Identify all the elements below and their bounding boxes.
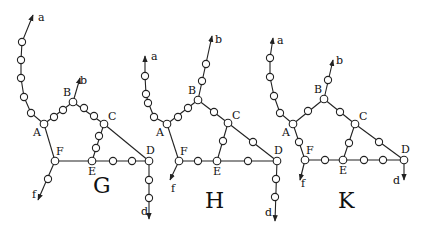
bead-node bbox=[321, 156, 328, 163]
end-label-b: b bbox=[80, 74, 87, 87]
bead-node bbox=[266, 73, 273, 80]
vertex-label-b: B bbox=[314, 83, 322, 96]
vertex-label-a: A bbox=[32, 126, 42, 139]
bead-node bbox=[210, 108, 217, 115]
end-label-b: b bbox=[215, 33, 222, 46]
vertex-a bbox=[40, 120, 48, 128]
panel-title-g: G bbox=[93, 173, 111, 198]
vertex-label-c: C bbox=[108, 110, 116, 123]
vertex-f bbox=[301, 156, 309, 164]
bead-node bbox=[202, 60, 209, 67]
bead-node bbox=[18, 38, 25, 45]
end-label-d: d bbox=[393, 174, 400, 187]
vertex-label-d: D bbox=[274, 144, 283, 157]
bead-node bbox=[276, 109, 283, 116]
panel-title-k: K bbox=[338, 188, 355, 213]
vertex-e bbox=[213, 157, 221, 165]
bead-node bbox=[50, 113, 57, 120]
vertex-label-c: C bbox=[232, 109, 240, 122]
edge-D-d bbox=[275, 161, 277, 221]
vertex-label-f: F bbox=[306, 144, 314, 157]
end-label-f: f bbox=[171, 182, 176, 195]
vertex-b bbox=[69, 98, 77, 106]
vertex-label-b: B bbox=[188, 84, 196, 97]
bead-node bbox=[27, 109, 34, 116]
vertex-label-e: E bbox=[213, 165, 221, 178]
edge-A-F bbox=[167, 124, 179, 161]
bead-node bbox=[17, 56, 24, 63]
bead-node bbox=[198, 77, 205, 84]
bead-node bbox=[128, 157, 135, 164]
end-label-a: a bbox=[277, 34, 284, 47]
end-label-f: f bbox=[32, 188, 37, 201]
bead-node bbox=[90, 112, 97, 119]
vertex-d bbox=[273, 157, 281, 165]
edge-A-a bbox=[21, 15, 44, 124]
end-label-b: b bbox=[336, 54, 343, 67]
bead-node bbox=[375, 138, 382, 145]
bead-node bbox=[145, 176, 152, 183]
vertex-c bbox=[224, 119, 232, 127]
vertex-c bbox=[100, 120, 108, 128]
vertex-e bbox=[339, 156, 347, 164]
bead-node bbox=[95, 132, 102, 139]
bead-node bbox=[109, 157, 116, 164]
vertex-label-d: D bbox=[146, 144, 155, 157]
bead-node bbox=[184, 104, 191, 111]
bead-node bbox=[324, 76, 331, 83]
bead-node bbox=[92, 144, 99, 151]
bead-node bbox=[44, 175, 51, 182]
vertex-e bbox=[88, 157, 96, 165]
bead-node bbox=[144, 99, 151, 106]
bead-node bbox=[336, 108, 343, 115]
knot-diagram-canvas: ABCDEFabfdG ABCDEFabfdH ABCDEFabfdK bbox=[0, 0, 425, 228]
bead-node bbox=[142, 90, 149, 97]
bead-node bbox=[379, 156, 386, 163]
bead-node bbox=[150, 113, 157, 120]
bead-node bbox=[17, 74, 24, 81]
vertex-label-c: C bbox=[359, 110, 367, 123]
edge-A-F bbox=[44, 124, 55, 161]
end-label-a: a bbox=[38, 11, 45, 24]
bead-node bbox=[304, 107, 311, 114]
bead-node bbox=[174, 113, 181, 120]
bead-node bbox=[20, 93, 27, 100]
bead-node bbox=[360, 156, 367, 163]
bead-node bbox=[219, 137, 226, 144]
bead-node bbox=[270, 92, 277, 99]
vertex-label-f: F bbox=[180, 145, 188, 158]
bead-node bbox=[145, 194, 152, 201]
vertex-b bbox=[194, 96, 202, 104]
bead-node bbox=[272, 175, 279, 182]
bead-node bbox=[266, 54, 273, 61]
diagram-panel-k: ABCDEFabfdK bbox=[266, 34, 410, 213]
end-label-d: d bbox=[141, 205, 148, 218]
bead-node bbox=[59, 106, 66, 113]
vertex-a bbox=[289, 120, 297, 128]
vertex-f bbox=[51, 157, 59, 165]
edge-C-E bbox=[92, 124, 104, 161]
diagram-panel-h: ABCDEFabfdH bbox=[141, 33, 283, 221]
vertex-label-e: E bbox=[339, 164, 347, 177]
end-label-f: f bbox=[301, 177, 306, 190]
end-label-d: d bbox=[265, 206, 272, 219]
bead-node bbox=[295, 138, 302, 145]
vertex-d bbox=[400, 156, 408, 164]
vertex-label-d: D bbox=[401, 143, 410, 156]
bead-node bbox=[80, 104, 87, 111]
diagram-panel-g: ABCDEFabfdG bbox=[17, 11, 155, 219]
edge-C-D bbox=[104, 124, 149, 161]
vertex-label-f: F bbox=[56, 145, 64, 158]
vertex-d bbox=[145, 157, 153, 165]
edge-A-B bbox=[44, 102, 73, 124]
vertex-label-b: B bbox=[63, 86, 71, 99]
vertex-a bbox=[163, 120, 171, 128]
bead-node bbox=[249, 138, 256, 145]
bead-node bbox=[244, 157, 251, 164]
panel-title-h: H bbox=[205, 188, 224, 213]
bead-node bbox=[345, 139, 352, 146]
edge-A-B bbox=[167, 100, 198, 124]
vertex-label-a: A bbox=[155, 126, 165, 139]
vertex-f bbox=[175, 157, 183, 165]
vertex-b bbox=[320, 95, 328, 103]
